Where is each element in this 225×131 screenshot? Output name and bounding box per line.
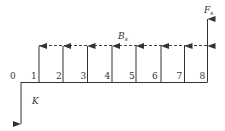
benefit-label: Bs xyxy=(117,31,128,42)
period-label: 6 xyxy=(152,71,158,81)
period-label: 7 xyxy=(177,71,183,81)
final-value-label: Fs xyxy=(203,5,213,16)
period-label: 4 xyxy=(105,71,111,81)
diagram-canvas: 0 1 2 3 4 5 6 7 8 Bs Fs K xyxy=(0,0,225,131)
period-label: 3 xyxy=(81,71,87,81)
investment-label: K xyxy=(31,96,40,106)
period-label: 2 xyxy=(56,71,62,81)
period-label: 1 xyxy=(31,71,37,81)
period-label: 5 xyxy=(129,71,135,81)
cash-flow-diagram: 0 1 2 3 4 5 6 7 8 Bs Fs K xyxy=(0,0,225,131)
period-label: 8 xyxy=(200,71,206,81)
period-label: 0 xyxy=(10,71,16,81)
